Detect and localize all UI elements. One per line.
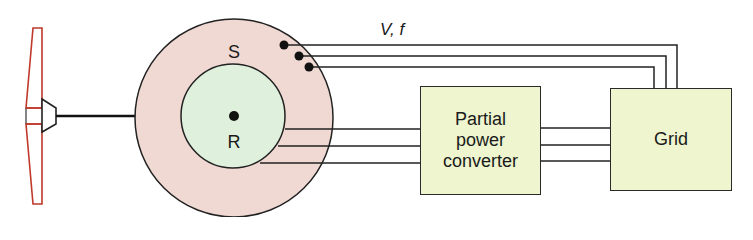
stator-output-label: V, f xyxy=(380,20,430,40)
shaft-center-dot xyxy=(229,111,239,121)
converter-label-line-3: converter xyxy=(443,151,518,172)
wind-turbine-icon xyxy=(26,28,56,204)
rotor-label: R xyxy=(222,132,246,153)
partial-power-converter-box: Partial power converter xyxy=(420,86,541,195)
stator-label: S xyxy=(222,42,246,63)
converter-label-line-2: power xyxy=(443,130,518,151)
converter-label-line-1: Partial xyxy=(443,109,518,130)
converter-label: Partial power converter xyxy=(443,109,518,171)
converter-grid-connection xyxy=(540,128,611,161)
grid-box: Grid xyxy=(610,88,732,191)
stator-grid-connection xyxy=(284,45,677,88)
grid-label: Grid xyxy=(654,129,688,150)
